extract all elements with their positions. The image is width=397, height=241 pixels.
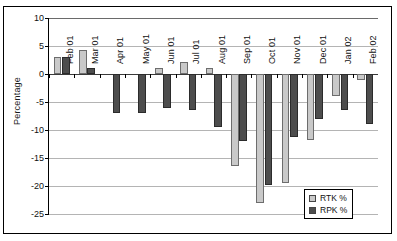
x-tick-mark [125, 74, 126, 78]
y-tick-label: 0 [39, 69, 44, 79]
legend-label-rpk: RPK % [320, 205, 347, 215]
x-axis-label: Nov 01 [292, 35, 302, 64]
x-axis-label: Jun 01 [166, 36, 176, 64]
y-tick-label: 5 [39, 41, 44, 51]
x-axis-label: Apr 01 [115, 37, 125, 64]
bar-group: Jul 01 [176, 18, 201, 214]
x-tick-mark [327, 74, 328, 78]
bar-group: Jun 01 [150, 18, 175, 214]
bar-rpk [315, 74, 323, 119]
bar-rtk [282, 74, 290, 183]
bar-rpk [366, 74, 374, 124]
x-axis-label: Aug 01 [217, 35, 227, 64]
x-axis-label: Feb 02 [368, 35, 378, 64]
x-tick-mark [176, 74, 177, 78]
x-tick-mark [201, 74, 202, 78]
x-tick-mark [251, 74, 252, 78]
y-tick-label: -20 [31, 181, 44, 191]
bar-rpk [62, 57, 70, 74]
plot-area: 1050-5-10-15-20-25 Feb 01Mar 01Apr 01May… [48, 18, 378, 215]
bar-group: May 01 [125, 18, 150, 214]
legend-swatch-rpk-icon [309, 207, 316, 214]
legend-swatch-rtk-icon [309, 195, 316, 202]
y-tick-mark [45, 214, 49, 215]
x-axis-label: Dec 01 [318, 35, 328, 64]
x-axis-label: Mar 01 [90, 35, 100, 64]
bar-rpk [341, 74, 349, 110]
x-tick-mark [302, 74, 303, 78]
x-axis-label: Jan 02 [343, 36, 353, 64]
y-tick-label: -15 [31, 153, 44, 163]
bar-groups: Feb 01Mar 01Apr 01May 01Jun 01Jul 01Aug … [49, 18, 378, 214]
x-tick-mark [100, 74, 101, 78]
bar-group: Feb 01 [49, 18, 74, 214]
x-axis-label: Jul 01 [191, 39, 201, 64]
bar-rtk [357, 74, 365, 80]
bar-group: Oct 01 [251, 18, 276, 214]
x-axis-label: Sep 01 [242, 35, 252, 64]
x-axis-label: Oct 01 [267, 37, 277, 64]
bar-rpk [265, 74, 273, 185]
bar-rtk [332, 74, 340, 96]
x-tick-mark [74, 74, 75, 78]
x-tick-mark [150, 74, 151, 78]
bar-rtk [155, 68, 163, 74]
bar-rtk [180, 62, 188, 74]
bar-rpk [214, 74, 222, 127]
bar-rpk [138, 74, 146, 113]
x-tick-mark [353, 74, 354, 78]
legend-label-rtk: RTK % [320, 193, 347, 203]
bar-group: Sep 01 [226, 18, 251, 214]
bar-rpk [163, 74, 171, 108]
bar-group: Dec 01 [302, 18, 327, 214]
bar-rtk [231, 74, 239, 166]
bar-group: Apr 01 [100, 18, 125, 214]
chart-legend: RTK % RPK % [304, 189, 353, 219]
bar-group: Jan 02 [327, 18, 352, 214]
legend-item-rtk: RTK % [309, 193, 347, 203]
y-tick-label: -10 [31, 125, 44, 135]
bar-group: Mar 01 [74, 18, 99, 214]
legend-item-rpk: RPK % [309, 205, 347, 215]
bar-rtk [54, 57, 62, 74]
bar-rpk [189, 74, 197, 110]
y-tick-label: 10 [34, 13, 44, 23]
y-axis-title: Percentage [12, 56, 22, 146]
x-tick-mark [49, 74, 50, 78]
x-tick-mark [277, 74, 278, 78]
bar-rtk [206, 68, 214, 74]
bar-rtk [79, 50, 87, 74]
bar-rpk [87, 68, 95, 74]
y-tick-label: -25 [31, 209, 44, 219]
x-tick-mark [226, 74, 227, 78]
x-axis-label: May 01 [141, 34, 151, 64]
bar-rpk [239, 74, 247, 141]
bar-rpk [290, 74, 298, 137]
bar-rtk [307, 74, 315, 140]
bar-chart: Percentage 1050-5-10-15-20-25 Feb 01Mar … [0, 0, 397, 241]
bar-group: Nov 01 [277, 18, 302, 214]
bar-rpk [113, 74, 121, 113]
bar-group: Feb 02 [353, 18, 378, 214]
bar-rtk [256, 74, 264, 203]
y-tick-label: -5 [36, 97, 44, 107]
bar-group: Aug 01 [201, 18, 226, 214]
